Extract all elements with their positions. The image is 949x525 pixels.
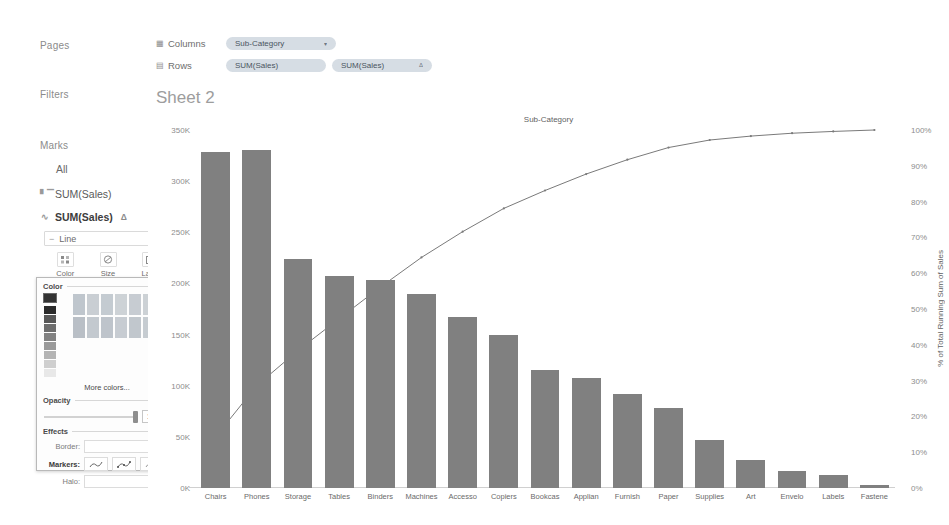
- color-swatch[interactable]: [129, 294, 141, 315]
- opacity-slider[interactable]: [44, 416, 138, 418]
- bar-mark[interactable]: [242, 150, 271, 488]
- marker-option-none-icon[interactable]: [84, 457, 108, 471]
- y-axis-tick-label: 0K: [180, 484, 190, 493]
- bar-mark[interactable]: [201, 152, 230, 488]
- gray-swatch[interactable]: [44, 369, 56, 377]
- selected-color-swatch[interactable]: [44, 294, 56, 302]
- marks-card-sum-sales-bar[interactable]: ▘▔ SUM(Sales): [40, 188, 112, 200]
- pill-sum-sales-2[interactable]: SUM(Sales) Δ: [332, 59, 432, 72]
- size-button[interactable]: Size: [87, 252, 130, 278]
- columns-shelf[interactable]: ▦ Columns Sub-Category ▾: [148, 32, 949, 54]
- line-point-mark[interactable]: [544, 189, 546, 191]
- color-swatch[interactable]: [101, 317, 113, 338]
- color-swatch[interactable]: [73, 317, 85, 338]
- color-swatch[interactable]: [73, 294, 85, 315]
- markers-label: Markers:: [44, 460, 80, 469]
- bar-mark[interactable]: [531, 370, 560, 488]
- gray-swatch[interactable]: [44, 342, 56, 350]
- bar-mark[interactable]: [695, 440, 724, 488]
- color-grid[interactable]: [73, 294, 155, 377]
- line-point-mark[interactable]: [709, 139, 711, 141]
- x-axis-tick-label[interactable]: Envelo: [781, 492, 804, 501]
- x-axis-tick-label[interactable]: Tables: [328, 492, 350, 501]
- x-axis-tick-label[interactable]: Applian: [574, 492, 599, 501]
- color-button[interactable]: Color: [44, 252, 87, 278]
- pages-shelf-label: Pages: [40, 40, 69, 51]
- x-axis-tick-label[interactable]: Labels: [822, 492, 844, 501]
- x-axis-tick-label[interactable]: Furnish: [615, 492, 640, 501]
- x-axis-tick-label[interactable]: Copiers: [491, 492, 517, 501]
- bar-mark[interactable]: [572, 378, 601, 488]
- marks-card-sum-sales-line[interactable]: ∿ SUM(Sales) Δ: [40, 211, 127, 223]
- rows-shelf[interactable]: ▤ Rows SUM(Sales) SUM(Sales) Δ: [148, 54, 949, 76]
- right-axis-tick-label: 40%: [911, 340, 927, 349]
- bar-mark[interactable]: [613, 394, 642, 488]
- chart-plot-area: 350K300K250K200K150K100K50K0K100%90%80%7…: [195, 130, 895, 488]
- line-point-mark[interactable]: [832, 130, 834, 132]
- line-point-mark[interactable]: [750, 135, 752, 137]
- right-axis-tick-label: 90%: [911, 161, 927, 170]
- marks-card-all[interactable]: All: [56, 163, 68, 175]
- columns-grid-icon: ▦: [156, 39, 168, 48]
- chevron-down-icon: ▾: [312, 40, 327, 47]
- color-swatch[interactable]: [129, 317, 141, 338]
- filters-shelf-label: Filters: [40, 89, 69, 100]
- right-axis-tick-label: 100%: [911, 126, 931, 135]
- marker-option-all-icon[interactable]: [112, 457, 136, 471]
- line-chart-icon: ∿: [40, 212, 49, 222]
- line-point-mark[interactable]: [503, 207, 505, 209]
- rows-grid-icon: ▤: [156, 61, 168, 70]
- x-axis-tick-label[interactable]: Storage: [285, 492, 311, 501]
- color-swatch[interactable]: [101, 294, 113, 315]
- x-axis-tick-label[interactable]: Machines: [405, 492, 437, 501]
- bar-mark[interactable]: [489, 335, 518, 488]
- y-axis-tick-label: 300K: [171, 177, 190, 186]
- bar-mark[interactable]: [366, 280, 395, 488]
- right-axis-tick-label: 10%: [911, 448, 927, 457]
- bar-mark[interactable]: [654, 408, 683, 488]
- line-point-mark[interactable]: [626, 159, 628, 161]
- line-point-mark[interactable]: [420, 256, 422, 258]
- line-point-mark[interactable]: [873, 129, 875, 131]
- gray-swatch[interactable]: [44, 333, 56, 341]
- bar-mark[interactable]: [284, 259, 313, 488]
- pill-sum-sales-1[interactable]: SUM(Sales): [226, 59, 326, 72]
- bar-mark[interactable]: [448, 317, 477, 488]
- x-axis-tick-label[interactable]: Fastene: [861, 492, 888, 501]
- line-point-mark[interactable]: [667, 146, 669, 148]
- bar-mark[interactable]: [736, 460, 765, 488]
- x-axis-tick-label[interactable]: Paper: [659, 492, 679, 501]
- x-axis-tick-label[interactable]: Phones: [244, 492, 269, 501]
- bar-mark[interactable]: [778, 471, 807, 488]
- x-axis-tick-label[interactable]: Binders: [368, 492, 393, 501]
- gray-swatch[interactable]: [44, 324, 56, 332]
- x-axis-tick-label[interactable]: Bookcas: [531, 492, 560, 501]
- grayscale-column[interactable]: [44, 294, 56, 377]
- x-axis-tick-label[interactable]: Art: [746, 492, 756, 501]
- color-swatch[interactable]: [87, 317, 99, 338]
- pill-sub-category[interactable]: Sub-Category ▾: [226, 37, 336, 50]
- line-point-mark[interactable]: [462, 231, 464, 233]
- line-point-mark[interactable]: [585, 173, 587, 175]
- halo-label: Halo:: [44, 477, 80, 486]
- color-swatch[interactable]: [115, 294, 127, 315]
- x-axis-tick-label[interactable]: Accesso: [448, 492, 476, 501]
- bar-mark[interactable]: [325, 276, 354, 488]
- x-axis-tick-label[interactable]: Chairs: [205, 492, 227, 501]
- color-swatch[interactable]: [115, 317, 127, 338]
- bar-mark[interactable]: [819, 475, 848, 488]
- gray-swatch[interactable]: [44, 306, 56, 314]
- line-point-mark[interactable]: [791, 132, 793, 134]
- right-axis-tick-label: 80%: [911, 197, 927, 206]
- opacity-slider-knob[interactable]: [133, 411, 138, 423]
- color-swatch[interactable]: [87, 294, 99, 315]
- bar-mark[interactable]: [407, 294, 436, 488]
- gray-swatch[interactable]: [44, 351, 56, 359]
- effects-section-label: Effects: [43, 427, 68, 436]
- gray-swatch[interactable]: [44, 315, 56, 323]
- gray-swatch[interactable]: [44, 360, 56, 368]
- right-axis-title: % of Total Running Sum of Sales: [936, 250, 945, 367]
- bar-mark[interactable]: [860, 485, 889, 488]
- x-axis-tick-label[interactable]: Supplies: [695, 492, 724, 501]
- left-shelf-panel: Pages Filters Marks All ▘▔ SUM(Sales) ∿ …: [0, 0, 148, 525]
